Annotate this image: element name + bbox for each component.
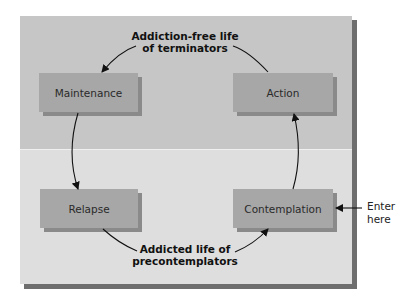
- arrow-action-to-maintenance: [233, 46, 268, 72]
- arrow-into-maintenance: [102, 46, 136, 72]
- arrow-contemplation-to-action: [293, 114, 298, 189]
- arrow-maintenance-to-relapse: [72, 113, 78, 189]
- cycle-arrows: [0, 0, 420, 303]
- arrow-caption-to-contemplation: [235, 229, 268, 252]
- arrow-relapse-to-caption: [103, 229, 137, 251]
